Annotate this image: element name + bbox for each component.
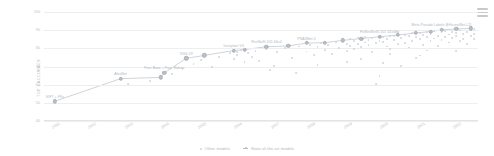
- scatter-point[interactable]: [473, 33, 475, 35]
- scatter-point[interactable]: [466, 31, 468, 33]
- scatter-point[interactable]: [390, 53, 392, 55]
- scatter-point[interactable]: [364, 36, 366, 38]
- scatter-point[interactable]: [415, 57, 417, 59]
- scatter-point[interactable]: [459, 30, 461, 32]
- scatter-point[interactable]: [335, 41, 337, 43]
- scatter-point[interactable]: [437, 35, 439, 37]
- scatter-point[interactable]: [266, 48, 268, 50]
- scatter-point[interactable]: [317, 46, 319, 48]
- scatter-point[interactable]: [349, 45, 351, 47]
- scatter-point[interactable]: [364, 42, 366, 44]
- scatter-point[interactable]: [375, 83, 377, 85]
- scatter-point[interactable]: [379, 40, 381, 42]
- scatter-point[interactable]: [313, 54, 315, 56]
- scatter-point[interactable]: [218, 56, 220, 58]
- scatter-point[interactable]: [306, 51, 308, 53]
- scatter-point[interactable]: [444, 30, 446, 32]
- scatter-point[interactable]: [328, 44, 330, 46]
- scatter-point[interactable]: [244, 61, 246, 63]
- scatter-point[interactable]: [360, 58, 362, 60]
- legend-item-sota-models[interactable]: State-of-the-art models: [243, 146, 294, 151]
- scatter-point[interactable]: [276, 51, 278, 53]
- scatter-point[interactable]: [324, 49, 326, 51]
- scatter-point[interactable]: [236, 51, 238, 53]
- scatter-point[interactable]: [295, 72, 297, 74]
- scatter-point[interactable]: [415, 36, 417, 38]
- scatter-point[interactable]: [317, 64, 319, 66]
- scatter-point[interactable]: [353, 48, 355, 50]
- scatter-point[interactable]: [269, 69, 271, 71]
- scatter-point[interactable]: [382, 36, 384, 38]
- scatter-point[interactable]: [444, 36, 446, 38]
- scatter-point[interactable]: [419, 38, 421, 40]
- scatter-point[interactable]: [437, 45, 439, 47]
- scatter-point[interactable]: [455, 35, 457, 37]
- scatter-point[interactable]: [408, 47, 410, 49]
- scatter-point[interactable]: [353, 40, 355, 42]
- scatter-point[interactable]: [255, 50, 257, 52]
- scatter-point[interactable]: [433, 38, 435, 40]
- scatter-point[interactable]: [251, 56, 253, 58]
- scatter-point[interactable]: [473, 38, 475, 40]
- legend-item-other-models[interactable]: Other models: [200, 146, 230, 151]
- scatter-point[interactable]: [397, 43, 399, 45]
- scatter-point[interactable]: [338, 47, 340, 49]
- scatter-point[interactable]: [448, 42, 450, 44]
- scatter-point[interactable]: [393, 39, 395, 41]
- scatter-point[interactable]: [455, 32, 457, 34]
- scatter-point[interactable]: [400, 37, 402, 39]
- scatter-point[interactable]: [433, 30, 435, 32]
- scatter-point[interactable]: [459, 40, 461, 42]
- scatter-point[interactable]: [466, 43, 468, 45]
- scatter-point[interactable]: [357, 43, 359, 45]
- scatter-point[interactable]: [422, 34, 424, 36]
- scatter-point[interactable]: [441, 39, 443, 41]
- scatter-point[interactable]: [390, 48, 392, 50]
- scatter-point[interactable]: [309, 44, 311, 46]
- scatter-point[interactable]: [441, 31, 443, 33]
- scatter-point[interactable]: [455, 50, 457, 52]
- scatter-point[interactable]: [346, 50, 348, 52]
- scatter-point[interactable]: [375, 42, 377, 44]
- scatter-point[interactable]: [386, 46, 388, 48]
- scatter-point[interactable]: [149, 80, 151, 82]
- scatter-point[interactable]: [368, 39, 370, 41]
- scatter-point[interactable]: [473, 28, 475, 30]
- hamburger-menu-icon[interactable]: [477, 8, 488, 17]
- scatter-point[interactable]: [426, 36, 428, 38]
- scatter-point[interactable]: [229, 52, 231, 54]
- scatter-point[interactable]: [258, 60, 260, 62]
- scatter-point[interactable]: [390, 35, 392, 37]
- scatter-point[interactable]: [411, 40, 413, 42]
- scatter-point[interactable]: [382, 41, 384, 43]
- scatter-point[interactable]: [236, 54, 238, 56]
- scatter-point[interactable]: [452, 37, 454, 39]
- scatter-point[interactable]: [430, 40, 432, 42]
- scatter-point[interactable]: [346, 43, 348, 45]
- scatter-point[interactable]: [462, 38, 464, 40]
- scatter-point[interactable]: [193, 63, 195, 65]
- scatter-point[interactable]: [127, 83, 129, 85]
- scatter-point[interactable]: [404, 42, 406, 44]
- scatter-point[interactable]: [360, 46, 362, 48]
- scatter-point[interactable]: [171, 73, 173, 75]
- scatter-point[interactable]: [382, 62, 384, 64]
- scatter-point[interactable]: [368, 44, 370, 46]
- scatter-point[interactable]: [346, 61, 348, 63]
- scatter-point[interactable]: [408, 35, 410, 37]
- scatter-point[interactable]: [291, 57, 293, 59]
- scatter-point[interactable]: [273, 65, 275, 67]
- scatter-point[interactable]: [247, 52, 249, 54]
- scatter-point[interactable]: [233, 58, 235, 60]
- scatter-point[interactable]: [386, 38, 388, 40]
- scatter-point[interactable]: [404, 34, 406, 36]
- scatter-point[interactable]: [371, 51, 373, 53]
- scatter-point[interactable]: [422, 44, 424, 46]
- scatter-point[interactable]: [400, 65, 402, 67]
- scatter-point[interactable]: [379, 75, 381, 77]
- scatter-point[interactable]: [452, 31, 454, 33]
- scatter-point[interactable]: [371, 37, 373, 39]
- scatter-point[interactable]: [448, 34, 450, 36]
- scatter-point[interactable]: [419, 55, 421, 57]
- scatter-point[interactable]: [211, 66, 213, 68]
